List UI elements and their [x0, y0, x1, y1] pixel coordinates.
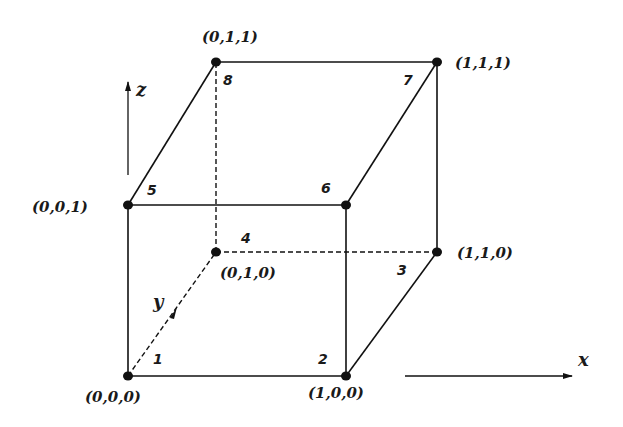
vertex-number-2: 2: [318, 351, 328, 367]
coord-label-1: (0,0,0): [85, 388, 141, 406]
coord-label-5: (0,0,1): [32, 198, 88, 216]
cube-diagram: z x y 1 2 3 4 5 6 7 8 (0,0,0) (1,0,0) (1…: [0, 0, 623, 427]
vertex-6: [341, 201, 351, 210]
vertex-5: [123, 201, 133, 210]
z-axis-label: z: [135, 79, 147, 100]
vertex-4: [211, 248, 221, 257]
vertex-number-3: 3: [397, 262, 407, 278]
coord-label-4: (0,1,0): [220, 264, 276, 282]
vertex-number-6: 6: [321, 180, 331, 196]
coord-label-2: (1,0,0): [308, 384, 364, 402]
vertex-3: [432, 248, 442, 257]
vertex-1: [123, 372, 133, 381]
vertex-7: [432, 58, 442, 67]
edge-1-4: [128, 252, 216, 376]
vertex-number-1: 1: [153, 351, 163, 367]
vertex-8: [211, 58, 221, 67]
coord-label-8: (0,1,1): [202, 28, 258, 46]
vertex-number-5: 5: [147, 182, 157, 198]
edge-6-7: [346, 62, 437, 205]
vertex-number-4: 4: [240, 230, 251, 246]
y-axis-label: y: [152, 291, 165, 312]
coord-label-3: (1,1,0): [457, 244, 513, 262]
edge-2-3: [346, 252, 437, 376]
vertex-number-8: 8: [223, 72, 233, 88]
vertex-2: [341, 372, 351, 381]
x-axis-label: x: [577, 349, 589, 370]
vertex-number-7: 7: [403, 72, 413, 88]
coord-label-7: (1,1,1): [455, 54, 511, 72]
